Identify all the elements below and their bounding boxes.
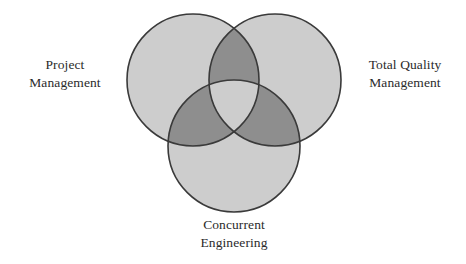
label-concurrent-engineering-line-2: Engineering — [175, 234, 293, 252]
label-concurrent-engineering-line-1: Concurrent — [175, 216, 293, 234]
label-total-quality-management-line-2: Management — [346, 74, 464, 92]
label-total-quality-management-line-1: Total Quality — [346, 56, 464, 74]
label-total-quality-management: Total Quality Management — [346, 56, 464, 92]
label-project-management-line-1: Project — [6, 56, 124, 74]
venn-diagram: Project Management Total Quality Managem… — [0, 0, 466, 264]
label-project-management: Project Management — [6, 56, 124, 92]
label-project-management-line-2: Management — [6, 74, 124, 92]
label-concurrent-engineering: Concurrent Engineering — [175, 216, 293, 252]
